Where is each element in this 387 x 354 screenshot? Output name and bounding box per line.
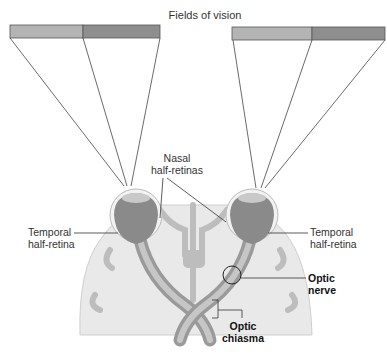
temporal-half-retina-left-label: Temporal half-retina [28,226,75,250]
optic-nerve-label: Optic nerve [308,272,336,296]
fields-of-vision-title: Fields of vision [155,9,255,21]
vessel-node [183,250,205,268]
temporal-half-retina-right-label: Temporal half-retina [310,226,357,250]
optic-chiasma-label: Optic chiasma [222,320,264,344]
left-field-of-vision [10,25,160,38]
right-field-of-vision [232,27,385,40]
visual-pathway-diagram [0,0,387,354]
nasal-half-retinas-label: Nasal half-retinas [142,152,212,176]
